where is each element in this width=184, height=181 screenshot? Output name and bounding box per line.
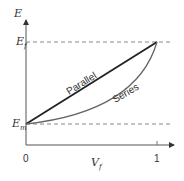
- composite-modulus-diagram: E Ef Em 0 1 Vf Parallel Series: [0, 0, 184, 181]
- x-tick-label-1: 1: [154, 153, 160, 164]
- y-axis-label: E: [13, 7, 22, 20]
- parallel-label: Parallel: [64, 70, 98, 97]
- em-label: Em: [11, 117, 27, 132]
- x-axis-label: Vf: [91, 156, 103, 171]
- x-tick-label-0: 0: [23, 153, 29, 164]
- series-label: Series: [111, 81, 141, 105]
